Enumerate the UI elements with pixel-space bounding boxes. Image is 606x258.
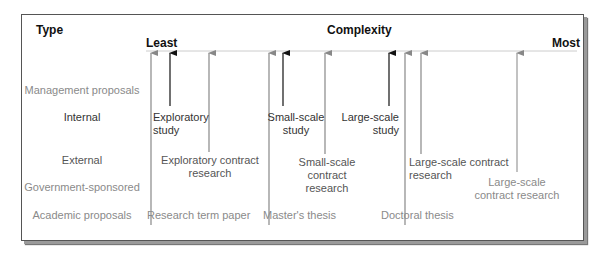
item-doctoral-thesis: Doctoral thesis (381, 209, 454, 222)
least-label: Least (146, 37, 177, 50)
item-research-term-paper: Research term paper (147, 209, 250, 222)
item-exploratory-study-line2: study (153, 124, 179, 137)
item-small-scale-study-line1: Small-scale (266, 111, 326, 124)
item-small-scale-contract-research-line3: research (294, 182, 360, 195)
item-exploratory-contract-research-line1: Exploratory contract (158, 154, 262, 167)
most-label: Most (552, 37, 580, 50)
row-label-government-sponsored: Government-sponsored (20, 181, 144, 194)
type-heading: Type (36, 24, 63, 37)
item-masters-thesis: Master's thesis (263, 209, 336, 222)
item-large-scale-contract-research-line2: research (409, 169, 452, 182)
item-small-scale-study-line2: study (266, 124, 326, 137)
item-gov-large-scale-contract-research-line2: contract research (470, 189, 564, 202)
item-large-scale-study-line2: study (340, 124, 399, 137)
item-exploratory-study-line1: Exploratory (153, 111, 209, 124)
item-small-scale-contract-research-line2: contract (294, 169, 360, 182)
row-label-management-proposals: Management proposals (20, 84, 144, 97)
item-exploratory-contract-research-line2: research (158, 167, 262, 180)
row-label-academic-proposals: Academic proposals (20, 209, 144, 222)
item-gov-large-scale-contract-research-line1: Large-scale (470, 176, 564, 189)
row-label-internal: Internal (20, 111, 144, 124)
row-label-external: External (20, 154, 144, 167)
item-large-scale-study-line1: Large-scale (340, 111, 399, 124)
complexity-heading: Complexity (327, 24, 392, 37)
item-large-scale-contract-research-line1: Large-scale contract (409, 156, 509, 169)
item-small-scale-contract-research-line1: Small-scale (294, 156, 360, 169)
